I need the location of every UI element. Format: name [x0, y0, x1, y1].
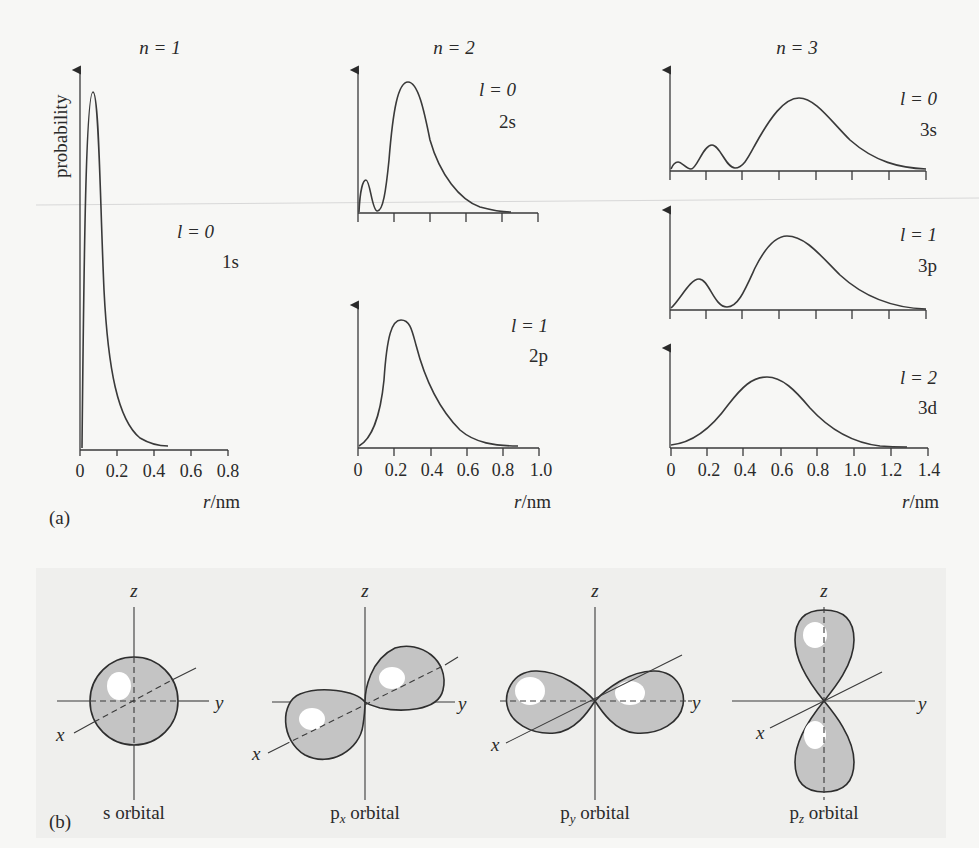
svg-text:0: 0 [76, 461, 85, 481]
plot-3s: l = 0 3s [670, 70, 937, 180]
curve-3d [671, 377, 907, 447]
curve-2p [359, 320, 518, 446]
plot-2p: l = 1 2p 0 0.2 0.4 0.6 0.8 1.0 r/nm [354, 305, 553, 512]
l-label-2p: l = 1 [511, 315, 548, 336]
orbital-name-2s: 2s [499, 111, 516, 132]
svg-text:0.8: 0.8 [217, 461, 240, 481]
y-axis-label: y [213, 692, 224, 713]
plot-3p: l = 1 3p [670, 210, 937, 319]
svg-text:1.0: 1.0 [530, 460, 553, 480]
svg-text:0.6: 0.6 [771, 460, 794, 480]
curve-3p [671, 236, 926, 309]
svg-text:1.4: 1.4 [918, 460, 941, 480]
l-label-3d: l = 2 [900, 367, 938, 388]
x-ticks-2p [358, 448, 539, 456]
column-header-n2: n = 2 [433, 37, 475, 58]
plot-3d: l = 2 3d 0 0.2 0.4 0.6 0.8 1.0 1.2 1.4 r… [667, 348, 941, 512]
z-axis-label: z [129, 580, 138, 601]
tick-labels-3d: 0 0.2 0.4 0.6 0.8 1.0 1.2 1.4 [667, 460, 941, 480]
x-ticks-1s [80, 450, 228, 456]
x-axis-label: x [251, 743, 261, 764]
z-axis-label: z [819, 580, 828, 601]
svg-text:0.2: 0.2 [698, 460, 721, 480]
svg-text:1.0: 1.0 [844, 460, 867, 480]
scan-artifact-line [36, 198, 979, 205]
tick-labels-1s: 0 0.2 0.4 0.6 0.8 [76, 461, 240, 481]
y-axis-label: y [690, 692, 701, 713]
svg-text:1.2: 1.2 [880, 460, 903, 480]
l-label-3p: l = 1 [900, 224, 937, 245]
x-axis-label-n3: r/nm [902, 491, 939, 512]
z-axis-label: z [360, 580, 369, 601]
orbital-name-3p: 3p [918, 255, 937, 276]
svg-text:0.2: 0.2 [106, 461, 129, 481]
l-label-1s: l = 0 [177, 221, 215, 242]
svg-text:0.4: 0.4 [143, 461, 166, 481]
svg-text:0: 0 [354, 460, 363, 480]
panel-b-label: (b) [49, 811, 71, 833]
y-axis-label: y [456, 693, 467, 714]
orbital-name-3s: 3s [920, 119, 937, 140]
orbital-name-1s: 1s [222, 251, 239, 272]
orbital-caption-s: s orbital [103, 802, 165, 823]
x-axis-label-n1: r/nm [203, 491, 240, 512]
svg-text:0.8: 0.8 [807, 460, 830, 480]
y-axis-label: y [916, 693, 927, 714]
x-axis-label: x [755, 722, 765, 743]
plot-2s: l = 0 2s [358, 70, 538, 222]
panel-a-label: (a) [49, 507, 70, 529]
x-ticks-3p [670, 310, 926, 319]
plot-1s: l = 0 1s 0 0.2 0.4 0.6 0.8 r/nm (a) [49, 70, 240, 529]
svg-text:0.6: 0.6 [457, 460, 480, 480]
x-axis-label-n2: r/nm [514, 491, 551, 512]
l-label-3s: l = 0 [900, 88, 938, 109]
column-header-n3: n = 3 [776, 37, 817, 58]
x-ticks-2s [358, 213, 538, 222]
svg-text:0.6: 0.6 [180, 461, 203, 481]
highlight [804, 721, 826, 749]
svg-text:0.4: 0.4 [734, 460, 757, 480]
column-header-n1: n = 1 [139, 37, 180, 58]
x-ticks-3d [671, 448, 928, 456]
orbital-name-3d: 3d [918, 397, 938, 418]
svg-text:0.8: 0.8 [492, 460, 515, 480]
svg-text:0: 0 [667, 460, 676, 480]
figure-canvas: n = 1 n = 2 n = 3 probability l = 0 1s 0… [0, 0, 979, 848]
highlight [379, 667, 405, 689]
x-ticks-3s [670, 171, 926, 180]
x-axis-label: x [55, 724, 65, 745]
svg-text:0.4: 0.4 [421, 460, 444, 480]
curve-2s [359, 82, 511, 212]
highlight [107, 672, 131, 700]
svg-text:0.2: 0.2 [385, 460, 408, 480]
z-axis-label: z [590, 580, 599, 601]
tick-labels-2p: 0 0.2 0.4 0.6 0.8 1.0 [354, 460, 553, 480]
l-label-2s: l = 0 [479, 79, 517, 100]
curve-1s [82, 92, 168, 448]
highlight [803, 622, 827, 648]
panel-a: n = 1 n = 2 n = 3 probability l = 0 1s 0… [49, 37, 940, 529]
figure: n = 1 n = 2 n = 3 probability l = 0 1s 0… [0, 0, 979, 848]
y-axis-label: probability [50, 94, 71, 178]
x-axis-label: x [490, 734, 500, 755]
curve-3s [671, 98, 926, 169]
orbital-name-2p: 2p [529, 345, 548, 366]
